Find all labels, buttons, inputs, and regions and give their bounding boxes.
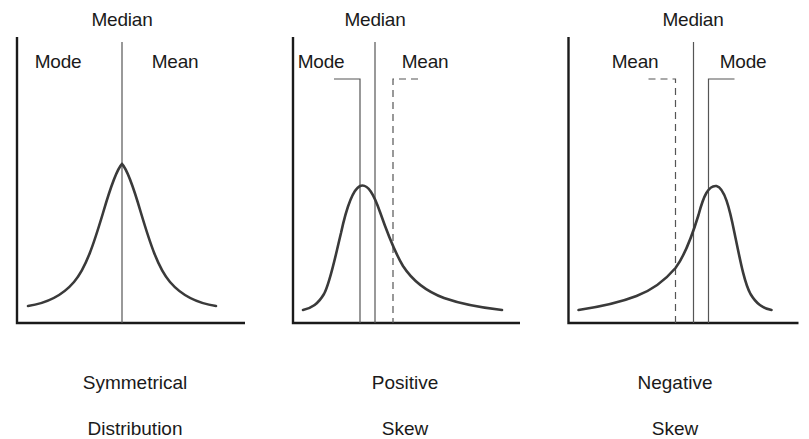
median-label: Median xyxy=(344,10,405,29)
panel-caption: Negative Skew xyxy=(540,348,809,439)
caption-line-1: Positive xyxy=(270,371,540,394)
caption-line-1: Symmetrical xyxy=(0,371,270,394)
mode-label: Mode xyxy=(35,52,82,71)
mode-label: Mode xyxy=(720,52,767,71)
panel-symmetrical: Median Mode Mean Symmetrical Distributio… xyxy=(0,0,270,425)
caption-line-1: Negative xyxy=(540,371,809,394)
caption-line-2: Skew xyxy=(540,417,809,439)
caption-line-2: Skew xyxy=(270,417,540,439)
mean-label: Mean xyxy=(402,52,449,71)
mean-label: Mean xyxy=(152,52,199,71)
mean-leader-line xyxy=(393,79,418,323)
panel-negative-skew: Median Mean Mode Negative Skew xyxy=(540,0,809,425)
axis-lines xyxy=(293,37,520,323)
panel-positive-skew: Median Mode Mean Positive Skew xyxy=(270,0,540,425)
mean-label: Mean xyxy=(612,52,659,71)
mode-label: Mode xyxy=(298,52,345,71)
caption-line-2: Distribution xyxy=(0,417,270,439)
axis-lines xyxy=(569,37,799,323)
panel-caption: Symmetrical Distribution xyxy=(0,348,270,439)
median-label: Median xyxy=(91,10,152,29)
distribution-curve xyxy=(303,186,502,310)
mode-leader-line xyxy=(334,79,360,323)
mode-leader-line xyxy=(709,79,735,323)
median-label: Median xyxy=(662,10,723,29)
panel-caption: Positive Skew xyxy=(270,348,540,439)
mean-leader-line xyxy=(649,79,676,323)
